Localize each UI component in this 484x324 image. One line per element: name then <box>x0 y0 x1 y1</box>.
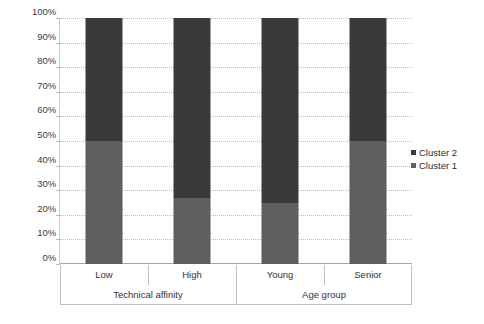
legend-swatch-icon-cluster-2 <box>411 150 416 155</box>
y-tick-label-30: 30% <box>14 179 56 189</box>
x-category-label-young: Young <box>236 265 324 285</box>
x-category-label-low: Low <box>60 265 148 285</box>
bar-slot-young <box>236 18 324 264</box>
bar-low-segment-cluster1 <box>86 141 123 264</box>
bar-high-segment-cluster2 <box>174 18 211 198</box>
y-tick-label-20: 20% <box>14 204 56 214</box>
y-tick-label-70: 70% <box>14 81 56 91</box>
bar-young[interactable] <box>262 18 299 264</box>
y-tick-label-0: 0% <box>14 253 56 263</box>
legend-swatch-icon-cluster-1 <box>411 163 416 168</box>
chart-legend: Cluster 2 Cluster 1 <box>411 146 483 172</box>
plot-area <box>60 18 412 264</box>
x-sep-cat-left-edge <box>60 265 61 285</box>
x-category-label-senior: Senior <box>324 265 412 285</box>
legend-item-cluster-2[interactable]: Cluster 2 <box>411 146 483 159</box>
x-sep-cat-young-senior <box>324 265 325 285</box>
y-tick-label-40: 40% <box>14 155 56 165</box>
x-sep-cat-low-high <box>148 265 149 285</box>
x-sep-group-middle <box>236 285 237 305</box>
bar-senior-segment-cluster2 <box>350 18 387 141</box>
legend-label-cluster-2: Cluster 2 <box>419 147 457 158</box>
bar-senior-segment-cluster1 <box>350 141 387 264</box>
x-group-label-technical-affinity: Technical affinity <box>60 285 236 305</box>
bar-high[interactable] <box>174 18 211 264</box>
bar-slot-high <box>148 18 236 264</box>
x-sep-group-left-edge <box>60 285 61 305</box>
y-tick-label-10: 10% <box>14 229 56 239</box>
legend-label-cluster-1: Cluster 1 <box>419 160 457 171</box>
bar-low[interactable] <box>86 18 123 264</box>
x-sep-cat-right-edge <box>411 265 412 285</box>
y-tick-label-60: 60% <box>14 106 56 116</box>
y-tick-label-80: 80% <box>14 56 56 66</box>
x-group-label-age-group: Age group <box>236 285 412 305</box>
bar-high-segment-cluster1 <box>174 198 211 264</box>
x-axis-bottom-rule <box>60 304 412 305</box>
y-axis-label-group: 100% 90% 80% 70% 60% 50% 40% 30% 20% 10%… <box>14 12 56 264</box>
stacked-bar-chart: 100% 90% 80% 70% 60% 50% 40% 30% 20% 10%… <box>0 0 484 324</box>
bar-senior[interactable] <box>350 18 387 264</box>
bar-young-segment-cluster2 <box>262 18 299 203</box>
y-tick-label-50: 50% <box>14 130 56 140</box>
bar-slot-senior <box>324 18 412 264</box>
y-tick-label-90: 90% <box>14 32 56 42</box>
legend-item-cluster-1[interactable]: Cluster 1 <box>411 159 483 172</box>
bar-low-segment-cluster2 <box>86 18 123 141</box>
x-sep-group-right-edge <box>411 285 412 305</box>
x-sep-cat-high-young <box>236 265 237 285</box>
bar-slot-low <box>60 18 148 264</box>
x-category-label-high: High <box>148 265 236 285</box>
y-tick-label-100: 100% <box>14 7 56 17</box>
bar-young-segment-cluster1 <box>262 203 299 265</box>
